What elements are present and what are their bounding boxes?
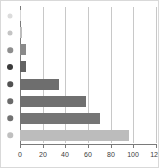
bar-2[interactable] [20, 27, 22, 38]
x-tick-mark-80 [111, 144, 112, 148]
gridline-100 [133, 7, 134, 143]
bar-7[interactable] [20, 113, 100, 124]
marker-dot-3[interactable] [7, 47, 13, 53]
marker-dot-6[interactable] [7, 98, 13, 104]
bar-6[interactable] [20, 96, 86, 107]
gridline-120 [156, 7, 157, 143]
bar-3[interactable] [20, 44, 26, 55]
x-tick-mark-120 [156, 144, 157, 148]
x-tick-mark-60 [88, 144, 89, 148]
marker-dot-8[interactable] [7, 132, 13, 138]
marker-dot-2[interactable] [8, 31, 13, 36]
x-tick-label-120: 120 [150, 150, 159, 159]
x-tick-label-80: 80 [107, 150, 115, 159]
x-tick-label-0: 0 [18, 150, 22, 159]
x-tick-mark-100 [133, 144, 134, 148]
x-tick-mark-0 [20, 144, 21, 148]
gridline-80 [111, 7, 112, 143]
bar-1[interactable] [20, 10, 21, 21]
x-tick-mark-40 [65, 144, 66, 148]
bar-5[interactable] [20, 79, 59, 90]
x-tick-label-40: 40 [61, 150, 69, 159]
marker-dot-7[interactable] [7, 115, 13, 121]
x-tick-label-20: 20 [39, 150, 47, 159]
x-tick-label-100: 100 [127, 150, 139, 159]
bar-4[interactable] [20, 61, 26, 72]
x-tick-label-60: 60 [84, 150, 92, 159]
marker-dot-4[interactable] [7, 64, 13, 70]
bar-chart-card: 020406080100120 [0, 0, 159, 168]
marker-dot-1[interactable] [8, 14, 13, 19]
bar-8[interactable] [20, 130, 129, 141]
marker-dot-5[interactable] [7, 81, 13, 87]
x-tick-mark-20 [43, 144, 44, 148]
